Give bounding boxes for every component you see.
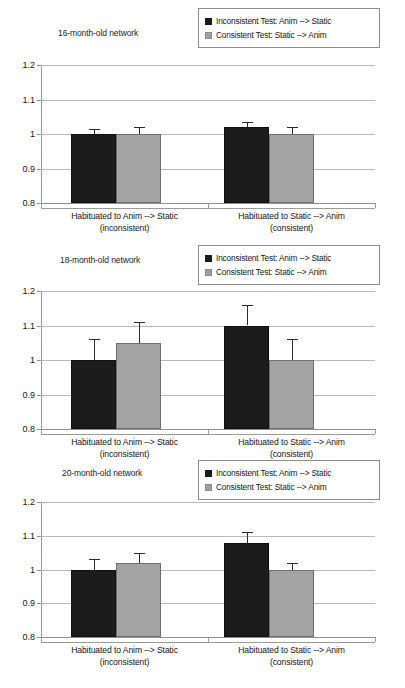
y-axis-tick-label: 1.2 <box>22 60 35 70</box>
y-axis-tick <box>37 100 41 101</box>
legend-item: Consistent Test: Static --> Anim <box>205 28 372 42</box>
y-axis-tick <box>37 395 41 396</box>
gridline <box>41 502 375 503</box>
legend-item-label: Consistent Test: Static --> Anim <box>216 482 327 492</box>
legend-item-label: Inconsistent Test: Anim --> Static <box>216 16 331 26</box>
bar-consistent <box>269 570 314 638</box>
legend-item: Inconsistent Test: Anim --> Static <box>205 14 372 28</box>
error-bar-cap <box>89 129 100 130</box>
error-bar-cap <box>287 127 298 128</box>
y-axis-tick <box>37 570 41 571</box>
chart-legend: Inconsistent Test: Anim --> StaticConsis… <box>198 245 380 285</box>
y-axis-tick <box>37 134 41 135</box>
error-bar-cap <box>89 559 100 560</box>
y-axis-tick-label: 1.1 <box>22 95 35 105</box>
y-axis-tick <box>37 360 41 361</box>
y-axis-tick <box>37 603 41 604</box>
y-axis-tick-label: 0.9 <box>22 598 35 608</box>
gridline <box>41 326 375 327</box>
black-square-icon <box>205 470 212 477</box>
error-bar-cap <box>134 322 145 323</box>
figure-page: { "figure": { "panels": [ { "title": "16… <box>0 0 405 688</box>
error-bar-line <box>139 127 140 134</box>
legend-item-label: Consistent Test: Static --> Anim <box>216 267 327 277</box>
error-bar-line <box>94 339 95 360</box>
error-bar-line <box>247 532 248 542</box>
legend-item-label: Inconsistent Test: Anim --> Static <box>216 468 331 478</box>
bar-consistent <box>269 360 314 429</box>
error-bar-cap <box>134 127 145 128</box>
y-axis-tick <box>37 502 41 503</box>
bar-inconsistent <box>224 543 269 638</box>
error-bar-line <box>94 559 95 569</box>
x-axis-category-label: Habituated to Static --> Anim(consistent… <box>208 645 375 668</box>
legend-item: Consistent Test: Static --> Anim <box>205 480 372 494</box>
legend-item: Inconsistent Test: Anim --> Static <box>205 251 372 265</box>
chart-title: 18-month-old network <box>60 255 140 265</box>
chart-legend: Inconsistent Test: Anim --> StaticConsis… <box>198 460 380 500</box>
y-axis-tick-label: 1.2 <box>22 286 35 296</box>
bar-consistent <box>116 563 161 637</box>
chart-panel-20-month: 20-month-old networkInconsistent Test: A… <box>0 427 405 656</box>
black-square-icon <box>205 255 212 262</box>
y-axis-tick-label: 1 <box>30 129 35 139</box>
legend-item-label: Inconsistent Test: Anim --> Static <box>216 253 331 263</box>
gray-square-icon <box>205 269 212 276</box>
x-axis-category-tick <box>375 203 376 208</box>
bar-inconsistent <box>224 326 269 430</box>
x-axis-category-tick <box>375 637 376 642</box>
bar-consistent <box>116 343 161 429</box>
y-axis-tick-label: 1.1 <box>22 531 35 541</box>
error-bar-line <box>139 553 140 563</box>
error-bar-line <box>292 339 293 360</box>
gridline <box>41 291 375 292</box>
x-axis-line <box>41 642 375 643</box>
x-axis-category-label-line: (inconsistent) <box>41 657 208 669</box>
black-square-icon <box>205 18 212 25</box>
error-bar-cap <box>242 532 253 533</box>
x-axis-line <box>41 208 375 209</box>
y-axis-tick-label: 0.8 <box>22 632 35 642</box>
error-bar-line <box>247 305 248 326</box>
chart-title: 20-month-old network <box>62 468 142 478</box>
y-axis-tick <box>37 169 41 170</box>
error-bar-line <box>139 322 140 343</box>
gridline <box>41 536 375 537</box>
gray-square-icon <box>205 32 212 39</box>
y-axis-tick-label: 1.2 <box>22 497 35 507</box>
bar-consistent <box>116 134 161 203</box>
error-bar-cap <box>134 553 145 554</box>
gridline <box>41 65 375 66</box>
legend-item: Consistent Test: Static --> Anim <box>205 265 372 279</box>
x-axis-category-label: Habituated to Anim --> Static(inconsiste… <box>41 645 208 668</box>
y-axis-tick-label: 0.9 <box>22 390 35 400</box>
x-axis-category-label-line: Habituated to Static --> Anim <box>208 645 375 657</box>
error-bar-cap <box>287 339 298 340</box>
y-axis-tick <box>37 536 41 537</box>
legend-item-label: Consistent Test: Static --> Anim <box>216 30 327 40</box>
bar-inconsistent <box>71 570 116 638</box>
gray-square-icon <box>205 484 212 491</box>
chart-panel-16-month: 16-month-old networkInconsistent Test: A… <box>0 0 405 229</box>
bar-inconsistent <box>71 134 116 203</box>
gridline <box>41 100 375 101</box>
y-axis-tick <box>37 65 41 66</box>
error-bar-line <box>292 127 293 134</box>
bar-inconsistent <box>224 127 269 203</box>
x-axis-category-label-line: (consistent) <box>208 657 375 669</box>
chart-legend: Inconsistent Test: Anim --> StaticConsis… <box>198 8 380 48</box>
bar-consistent <box>269 134 314 203</box>
y-axis-tick-label: 1.1 <box>22 321 35 331</box>
legend-item: Inconsistent Test: Anim --> Static <box>205 466 372 480</box>
y-axis-tick <box>37 326 41 327</box>
error-bar-cap <box>242 122 253 123</box>
y-axis-tick-label: 1 <box>30 355 35 365</box>
bar-inconsistent <box>71 360 116 429</box>
y-axis-tick-label: 1 <box>30 565 35 575</box>
error-bar-cap <box>89 339 100 340</box>
error-bar-line <box>292 563 293 570</box>
error-bar-cap <box>287 563 298 564</box>
y-axis-tick <box>37 291 41 292</box>
chart-panel-18-month: 18-month-old networkInconsistent Test: A… <box>0 216 405 445</box>
x-axis-category-label-line: Habituated to Anim --> Static <box>41 645 208 657</box>
